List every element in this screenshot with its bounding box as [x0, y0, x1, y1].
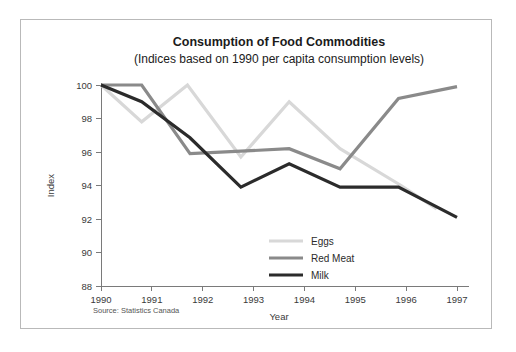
x-tick-label: 1995	[345, 294, 366, 305]
series-line-eggs	[101, 85, 437, 209]
y-tick-label: 92	[81, 214, 92, 225]
y-tick-label: 90	[81, 247, 92, 258]
source-note: Source: Statistics Canada	[93, 306, 180, 315]
line-chart: Consumption of Food Commodities(Indices …	[21, 20, 491, 328]
y-tick-label: 98	[81, 113, 92, 124]
figure-frame: Consumption of Food Commodities(Indices …	[20, 19, 492, 329]
x-tick-label: 1996	[396, 294, 417, 305]
x-tick-label: 1997	[446, 294, 467, 305]
legend-label-milk: Milk	[311, 270, 330, 281]
x-tick-label: 1991	[141, 294, 162, 305]
legend-label-red-meat: Red Meat	[311, 253, 355, 264]
chart-subtitle: (Indices based on 1990 per capita consum…	[134, 52, 424, 66]
y-axis-title: Index	[45, 174, 56, 197]
x-tick-label: 1990	[90, 294, 111, 305]
chart-title: Consumption of Food Commodities	[173, 35, 386, 49]
y-tick-label: 94	[81, 180, 92, 191]
y-tick-label: 88	[81, 281, 92, 292]
y-tick-label: 100	[76, 80, 92, 91]
y-tick-label: 96	[81, 147, 92, 158]
x-tick-label: 1994	[294, 294, 315, 305]
x-axis-title: Year	[269, 311, 288, 322]
x-tick-label: 1993	[243, 294, 264, 305]
series-line-red-meat	[101, 85, 457, 169]
legend-label-eggs: Eggs	[311, 236, 334, 247]
x-tick-label: 1992	[192, 294, 213, 305]
